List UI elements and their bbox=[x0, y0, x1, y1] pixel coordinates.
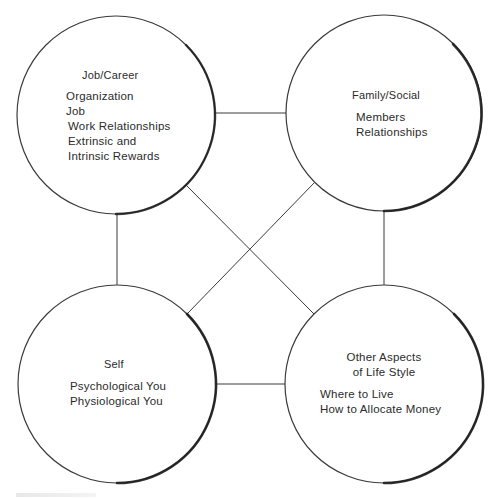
node-item: Psychological You bbox=[70, 379, 166, 394]
node-item: Work Relationships bbox=[68, 119, 170, 134]
node-title: Family/Social bbox=[352, 88, 428, 103]
node-item: Intrinsic Rewards bbox=[68, 149, 170, 164]
node-title: Other Aspects of Life Style bbox=[322, 350, 446, 380]
node-family-social: Family/Social Members Relationships bbox=[352, 88, 428, 140]
node-self: Self Psychological You Physiological You bbox=[70, 357, 166, 409]
node-other-aspects: Other Aspects of Life Style Where to Liv… bbox=[322, 350, 446, 417]
node-job-career: Job/Career Organization Job Work Relatio… bbox=[66, 68, 170, 164]
node-item: Where to Live bbox=[320, 387, 446, 402]
node-title-line: of Life Style bbox=[322, 365, 446, 380]
node-title-line: Other Aspects bbox=[322, 350, 446, 365]
node-item: Organization bbox=[66, 89, 170, 104]
node-item: Physiological You bbox=[70, 394, 166, 409]
node-item: Members bbox=[356, 110, 428, 125]
node-item: Extrinsic and bbox=[68, 134, 170, 149]
node-item: How to Allocate Money bbox=[320, 402, 446, 417]
node-title: Self bbox=[104, 357, 166, 372]
node-title: Job/Career bbox=[82, 68, 170, 83]
node-item: Relationships bbox=[356, 125, 428, 140]
figure-caption-fragment bbox=[16, 493, 96, 497]
node-item: Job bbox=[66, 104, 170, 119]
